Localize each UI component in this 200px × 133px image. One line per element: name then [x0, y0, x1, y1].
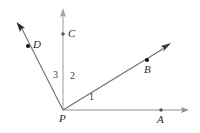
ray-PB [63, 43, 171, 110]
geometry-canvas [0, 0, 200, 133]
angle-label-3: 3 [53, 70, 58, 80]
point-label-B: B [144, 64, 151, 75]
point-label-A: A [157, 114, 164, 125]
point-C-dot [61, 32, 65, 36]
ray-PB-line [63, 47, 166, 110]
ray-PD [17, 22, 64, 110]
point-label-D: D [33, 39, 41, 50]
point-A-dot [159, 108, 162, 111]
point-D-dot [26, 44, 30, 48]
ray-PB-arrowhead [161, 43, 171, 52]
point-label-C: C [68, 28, 75, 39]
vertex-label-P: P [59, 113, 66, 124]
angle-label-1: 1 [89, 92, 94, 102]
ray-PD-arrowhead [17, 22, 26, 32]
ray-PA [63, 107, 189, 113]
geometry-figure: A B C D P 1 2 3 [0, 0, 200, 133]
angle-label-2: 2 [70, 71, 75, 81]
point-B-dot [145, 58, 149, 62]
ray-PC [60, 8, 66, 110]
